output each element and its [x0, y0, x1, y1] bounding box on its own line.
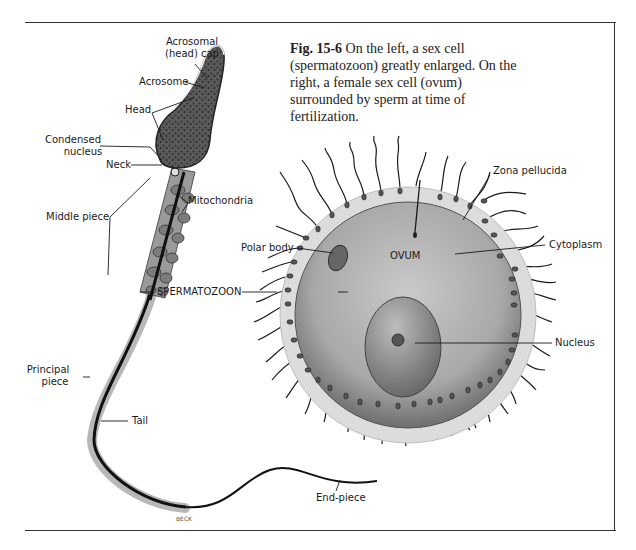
- label-principal-piece: Principal piece: [22, 364, 74, 388]
- label-mitochondria: Mitochondria: [188, 195, 253, 207]
- label-neck: Neck: [106, 159, 131, 171]
- label-head: Head: [125, 104, 151, 116]
- label-nucleus: Nucleus: [555, 337, 595, 349]
- label-condensed-nucleus: Condensed nucleus: [38, 134, 108, 158]
- artist-signature: BECK: [176, 513, 192, 525]
- ovum-diagram: [254, 136, 556, 446]
- label-ovum: OVUM: [390, 250, 420, 262]
- figure-15-6: Fig. 15-6 On the left, a sex cell (sperm…: [0, 0, 636, 550]
- illustration: [0, 0, 636, 550]
- label-acrosomal-cap: Acrosomal (head) cap: [152, 36, 232, 60]
- label-spermatozoon: SPERMATOZOON: [157, 286, 241, 298]
- label-cytoplasm: Cytoplasm: [549, 239, 602, 251]
- label-acrosome: Acrosome: [139, 76, 188, 88]
- label-middle-piece: Middle piece: [46, 211, 109, 223]
- label-tail: Tail: [132, 415, 148, 427]
- label-polar-body: Polar body: [241, 242, 294, 254]
- label-zona-pellucida: Zona pellucida: [493, 165, 567, 177]
- label-end-piece: End-piece: [316, 492, 366, 504]
